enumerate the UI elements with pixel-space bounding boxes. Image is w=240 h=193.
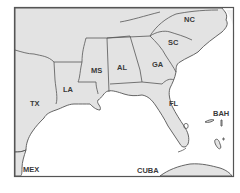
label-ms: MS <box>91 66 102 75</box>
label-nc: NC <box>184 15 195 24</box>
label-tx: TX <box>30 99 40 108</box>
bahamas-island-4 <box>223 138 224 140</box>
southeast-us-map: NC SC GA AL MS LA TX FL BAH CUBA MEX <box>0 0 240 193</box>
label-ga: GA <box>152 60 164 69</box>
bahamas-island-2 <box>221 120 222 126</box>
label-la: LA <box>63 85 74 94</box>
bahamas-island-3 <box>215 139 221 149</box>
cuba-land <box>160 164 232 176</box>
label-bah: BAH <box>213 109 229 118</box>
mainland <box>15 8 227 152</box>
label-sc: SC <box>168 38 179 47</box>
florida-keys <box>178 148 186 152</box>
label-cuba: CUBA <box>137 166 159 175</box>
label-mex: MEX <box>23 165 39 174</box>
label-al: AL <box>117 63 127 72</box>
label-fl: FL <box>169 99 179 108</box>
bahamas-island-1 <box>205 120 214 123</box>
